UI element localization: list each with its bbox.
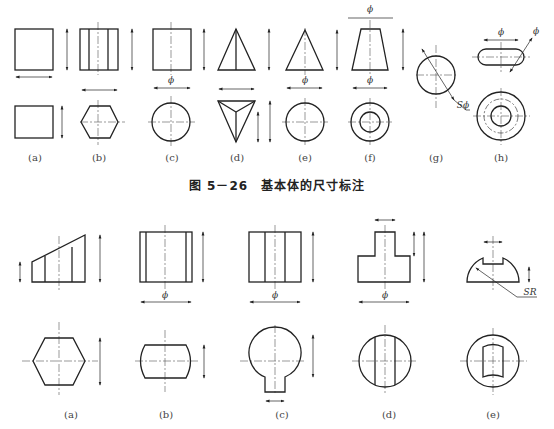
- fig1-c: [152, 29, 204, 141]
- fig1-label-a: (a): [28, 152, 42, 163]
- fig1-label-f: (f): [364, 152, 376, 163]
- center-lines: [22, 20, 530, 395]
- phi-symbol: ϕ: [302, 75, 308, 85]
- fig2-label-e: (e): [486, 409, 500, 420]
- fig2-label-a: (a): [64, 409, 78, 420]
- fig2-label-d: (d): [382, 409, 396, 420]
- phi-symbol: ϕ: [367, 4, 373, 14]
- fig2-d: [358, 220, 424, 387]
- fig1-b: [80, 29, 132, 138]
- sphere-phi-symbol: Sϕ: [457, 100, 469, 110]
- fig2-a: [20, 235, 100, 385]
- fig2-label-c: (c): [275, 409, 288, 420]
- fig2-label-b: (b): [159, 409, 173, 420]
- fig2-b: [140, 232, 204, 378]
- fig2-c: [249, 232, 313, 401]
- fig1-d: [218, 29, 270, 142]
- fig1-e: [286, 30, 337, 141]
- fig1-label-d: (d): [230, 152, 244, 163]
- sphere-radius-symbol: SR: [524, 287, 537, 297]
- phi-symbol: ϕ: [168, 75, 174, 85]
- figure-caption: 图 5－26 基本体的尺寸标注: [0, 176, 554, 193]
- fig1-label-b: (b): [92, 152, 106, 163]
- phi-symbol: ϕ: [272, 290, 278, 300]
- fig1-label-e: (e): [298, 152, 312, 163]
- fig1-label-g: (g): [429, 152, 443, 163]
- fig1-label-h: (h): [494, 152, 508, 163]
- phi-symbol: ϕ: [382, 290, 388, 300]
- fig2-e: [467, 242, 537, 387]
- phi-symbol: ϕ: [533, 26, 539, 36]
- fig1-a: [15, 29, 67, 138]
- fig1-h: [477, 38, 532, 140]
- phi-symbol: ϕ: [498, 27, 504, 37]
- fig1-label-c: (c): [165, 152, 178, 163]
- technical-drawings: [0, 0, 554, 429]
- phi-symbol: ϕ: [162, 290, 168, 300]
- fig1-f: [348, 18, 403, 141]
- phi-symbol: ϕ: [367, 75, 373, 85]
